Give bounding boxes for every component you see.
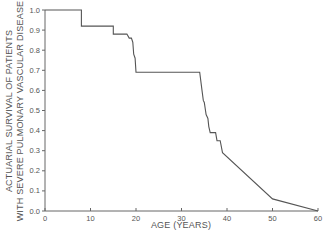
y-axis-ticks: 0.00.10.20.30.40.50.60.70.80.91.0 [30, 6, 45, 216]
y-axis-title-line2: WITH SEVERE PULMONARY VASCULAR DISEASE [15, 1, 25, 222]
y-tick-label: 0.2 [30, 166, 40, 175]
survival-curve [45, 10, 318, 211]
y-tick-label: 0.8 [30, 46, 40, 55]
y-tick-label: 0.0 [30, 207, 40, 216]
y-tick-label: 0.9 [30, 26, 40, 35]
x-tick-label: 50 [268, 214, 276, 223]
x-tick-label: 60 [314, 214, 322, 223]
x-axis-title: AGE (YEARS) [151, 220, 211, 230]
y-tick-label: 0.3 [30, 146, 40, 155]
y-axis-title-line1: ACTUARIAL SURVIVAL OF PATIENTS [4, 30, 14, 192]
y-tick-label: 0.4 [30, 126, 40, 135]
x-tick-label: 10 [86, 214, 94, 223]
axes [45, 10, 318, 211]
x-tick-label: 0 [43, 214, 47, 223]
y-tick-label: 0.7 [30, 66, 40, 75]
survival-chart: 0.00.10.20.30.40.50.60.70.80.91.0 010203… [0, 0, 326, 234]
y-tick-label: 0.1 [30, 186, 40, 195]
y-tick-label: 1.0 [30, 6, 40, 15]
x-tick-label: 20 [132, 214, 140, 223]
x-tick-label: 40 [223, 214, 231, 223]
y-tick-label: 0.5 [30, 106, 40, 115]
y-tick-label: 0.6 [30, 86, 40, 95]
